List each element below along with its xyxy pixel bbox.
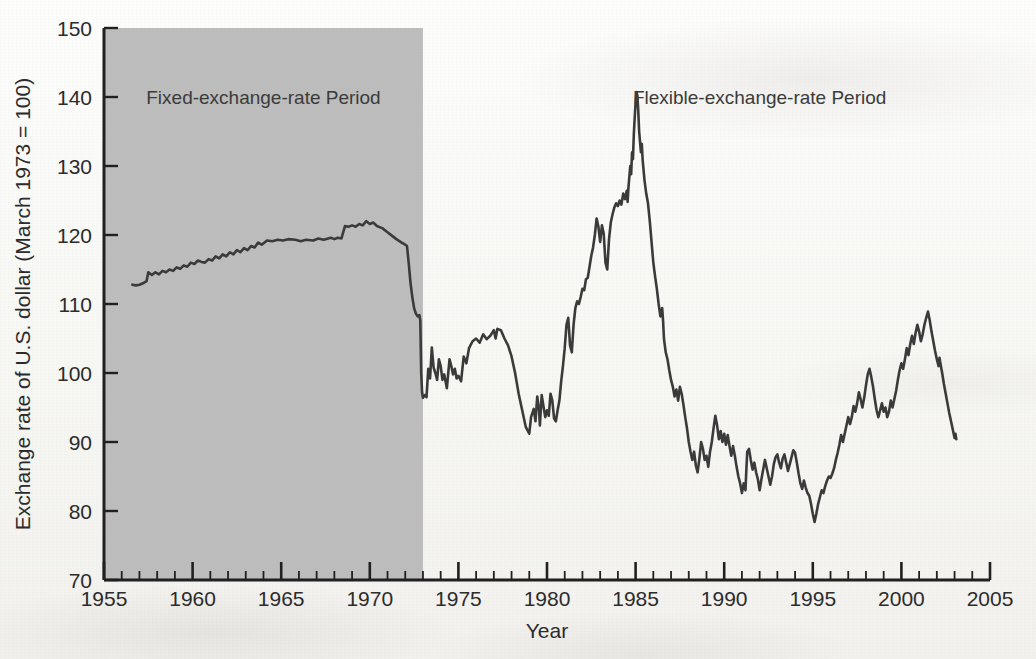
x-tick-label: 2005 bbox=[967, 587, 1014, 610]
shaded-region-group bbox=[104, 28, 423, 580]
x-tick-label: 1955 bbox=[81, 587, 128, 610]
x-tick-label: 1995 bbox=[789, 587, 836, 610]
fixed-exchange-rate-band bbox=[104, 28, 423, 580]
y-tick-label: 130 bbox=[57, 155, 92, 178]
fixed-period-label: Fixed-exchange-rate Period bbox=[146, 87, 380, 108]
chart-page: 708090100110120130140150 195519601965197… bbox=[0, 0, 1036, 659]
x-tick-label: 1985 bbox=[612, 587, 659, 610]
x-tick-label: 2000 bbox=[878, 587, 925, 610]
x-axis-title: Year bbox=[526, 619, 568, 642]
chart-annotations: Fixed-exchange-rate PeriodFlexible-excha… bbox=[146, 87, 886, 108]
x-tick-label: 1980 bbox=[524, 587, 571, 610]
y-tick-label: 120 bbox=[57, 224, 92, 247]
x-tick-label: 1975 bbox=[435, 587, 482, 610]
x-tick-label: 1960 bbox=[169, 587, 216, 610]
y-tick-label: 100 bbox=[57, 362, 92, 385]
x-tick-label: 1990 bbox=[701, 587, 748, 610]
flexible-period-label: Flexible-exchange-rate Period bbox=[633, 87, 886, 108]
y-tick-label: 140 bbox=[57, 86, 92, 109]
y-tick-label: 90 bbox=[69, 431, 92, 454]
y-axis-title: Exchange rate of U.S. dollar (March 1973… bbox=[11, 78, 34, 530]
exchange-rate-line-chart: 708090100110120130140150 195519601965197… bbox=[0, 0, 1036, 659]
x-tick-label: 1970 bbox=[346, 587, 393, 610]
y-tick-label: 80 bbox=[69, 500, 92, 523]
y-tick-label: 110 bbox=[59, 293, 92, 316]
x-tick-label: 1965 bbox=[258, 587, 305, 610]
y-tick-label: 150 bbox=[57, 17, 92, 40]
